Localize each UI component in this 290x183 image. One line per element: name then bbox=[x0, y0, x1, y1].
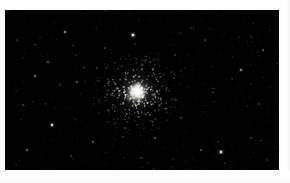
frame-border-right bbox=[279, 0, 290, 183]
photograph-frame bbox=[0, 0, 290, 183]
frame-border-bottom bbox=[0, 170, 290, 183]
frame-border-top bbox=[0, 0, 290, 10]
night-sky-field bbox=[5, 10, 279, 170]
globular-cluster-image bbox=[5, 10, 279, 170]
